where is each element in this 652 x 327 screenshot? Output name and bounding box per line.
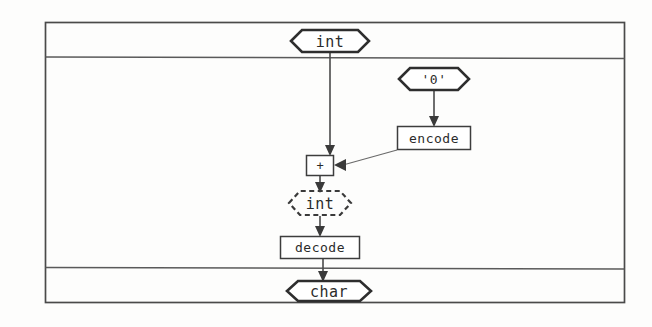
node-plus-op-label: + bbox=[316, 159, 323, 173]
node-char-literal-zero[interactable]: '0' bbox=[399, 68, 469, 90]
node-encode-op[interactable]: encode bbox=[398, 127, 471, 150]
dataflow-diagram: int '0' encode + int decode bbox=[0, 0, 652, 327]
node-output-char-label: char bbox=[310, 283, 348, 301]
edge-int-to-decode bbox=[315, 216, 325, 237]
node-char-literal-zero-label: '0' bbox=[422, 72, 447, 87]
diagram-frame bbox=[46, 23, 625, 303]
node-decode-op[interactable]: decode bbox=[281, 237, 360, 259]
node-decode-op-label: decode bbox=[295, 240, 345, 255]
diagram-page: int '0' encode + int decode bbox=[0, 0, 652, 327]
node-output-char[interactable]: char bbox=[287, 281, 371, 301]
edge-decode-to-char bbox=[318, 259, 328, 282]
edge-int-to-plus bbox=[325, 52, 335, 156]
node-plus-op[interactable]: + bbox=[307, 156, 334, 176]
edge-zero-to-encode bbox=[429, 91, 439, 127]
node-input-int[interactable]: int bbox=[291, 30, 369, 52]
edge-encode-to-plus bbox=[334, 150, 397, 171]
node-intermediate-int[interactable]: int bbox=[289, 191, 351, 215]
divider-input-band bbox=[46, 57, 625, 59]
node-input-int-label: int bbox=[316, 33, 345, 51]
node-intermediate-int-label: int bbox=[306, 195, 335, 213]
divider-output-band bbox=[46, 268, 625, 270]
node-encode-op-label: encode bbox=[409, 131, 459, 146]
